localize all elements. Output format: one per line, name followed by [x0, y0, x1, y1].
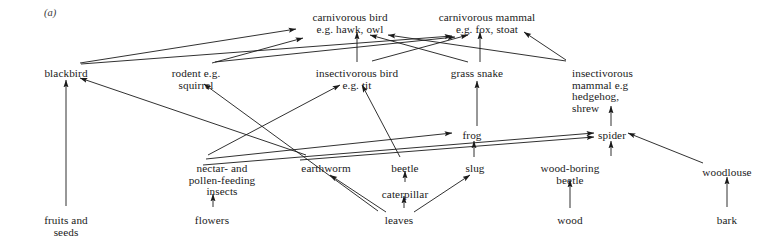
node-insectivorous_mammal: insectivorous mammal e.g hedgehog, shrew — [572, 68, 633, 114]
node-wood: wood — [557, 215, 582, 227]
node-earthworm: earthworm — [301, 163, 350, 175]
node-rodent: rodent e.g. squirrel — [172, 68, 221, 91]
node-nectar_pollen_insects: nectar- and pollen-feeding insects — [189, 163, 256, 198]
food-web-nodes: carnivorous bird e.g. hawk, owlcarnivoro… — [0, 0, 769, 249]
node-bark: bark — [717, 215, 737, 227]
node-blackbird: blackbird — [44, 68, 87, 80]
node-slug: slug — [465, 163, 484, 175]
node-woodlouse: woodlouse — [702, 167, 751, 179]
node-beetle: beetle — [391, 163, 418, 175]
food-web-diagram: (a) carnivorous bird e.g. hawk, owlcarni… — [0, 0, 769, 249]
node-spider: spider — [598, 130, 626, 142]
node-leaves: leaves — [385, 215, 414, 227]
node-wood_boring_beetle: wood-boring beetle — [541, 163, 600, 186]
node-flowers: flowers — [195, 215, 229, 227]
node-carnivorous_mammal: carnivorous mammal e.g. fox, stoat — [439, 12, 536, 35]
node-fruits_and_seeds: fruits and seeds — [44, 215, 88, 238]
node-carnivorous_bird: carnivorous bird e.g. hawk, owl — [312, 12, 387, 35]
node-caterpillar: caterpillar — [382, 189, 428, 201]
node-grass_snake: grass snake — [451, 68, 503, 80]
node-insectivorous_bird: insectivorous bird e.g. tit — [316, 68, 398, 91]
node-frog: frog — [462, 130, 481, 142]
